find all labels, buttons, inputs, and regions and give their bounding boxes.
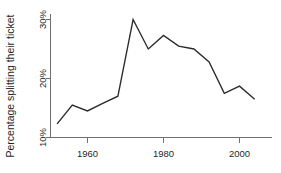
data-series-line (57, 20, 255, 124)
x-tick-label-1980: 1980 (153, 148, 174, 159)
y-tick-label-10: 10% (37, 127, 48, 147)
x-tick-label-1960: 1960 (77, 148, 98, 159)
y-tick-labels: 30% 20% 10% (37, 9, 48, 147)
x-tick-label-2000: 2000 (229, 148, 250, 159)
x-tick-labels: 1960 1980 2000 (77, 148, 250, 159)
chart-canvas: 30% 20% 10% 1960 1980 2000 Percentage sp… (0, 0, 281, 173)
line-chart-figure: 30% 20% 10% 1960 1980 2000 Percentage sp… (0, 0, 281, 173)
y-tick-label-30: 30% (37, 9, 48, 29)
y-tick-label-20: 20% (37, 68, 48, 88)
x-axis (51, 138, 273, 144)
y-axis-label: Percentage splitting their ticket (4, 14, 16, 157)
